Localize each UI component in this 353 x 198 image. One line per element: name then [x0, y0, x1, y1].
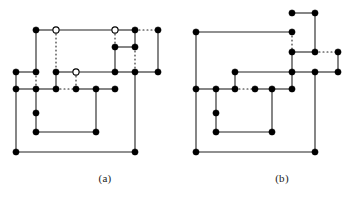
panel-a-vertices [13, 27, 161, 155]
graph-vertex-filled [13, 149, 19, 155]
caption-panel-b: (b) [252, 172, 312, 184]
graph-vertex-filled [13, 69, 19, 75]
graph-vertex-filled [33, 129, 39, 135]
graph-vertex-filled [13, 86, 19, 92]
graph-vertex-filled [73, 86, 79, 92]
graph-vertex-filled [112, 69, 118, 75]
graph-vertex-filled [193, 29, 199, 35]
graph-vertex-filled [289, 49, 295, 55]
graph-vertex-hollow [112, 27, 118, 33]
graph-vertex-filled [289, 69, 295, 75]
graph-vertex-filled [335, 49, 341, 55]
graph-vertex-filled [269, 86, 275, 92]
graph-vertex-filled [132, 149, 138, 155]
graph-vertex-filled [53, 86, 59, 92]
graph-vertex-filled [93, 86, 99, 92]
graph-vertex-filled [312, 149, 318, 155]
graph-vertex-filled [232, 69, 238, 75]
graph-vertex-filled [213, 86, 219, 92]
figure-container: (a) (b) [0, 0, 353, 198]
graph-vertex-filled [213, 110, 219, 116]
graph-vertex-filled [112, 44, 118, 50]
graph-vertex-filled [193, 149, 199, 155]
graph-vertex-filled [155, 69, 161, 75]
graph-vertex-filled [93, 129, 99, 135]
graph-vertex-filled [289, 86, 295, 92]
graph-vertex-hollow [73, 69, 79, 75]
graph-vertex-filled [312, 49, 318, 55]
panel-a-dotted-edges [36, 30, 158, 89]
graph-vertex-filled [289, 29, 295, 35]
graph-vertex-filled [33, 69, 39, 75]
graph-vertex-filled [33, 86, 39, 92]
graph-vertex-filled [33, 110, 39, 116]
panel-b-dotted-edges [235, 32, 338, 89]
graph-vertex-filled [312, 10, 318, 16]
graph-vertex-filled [232, 86, 238, 92]
graph-vertex-filled [252, 86, 258, 92]
graph-vertex-filled [193, 86, 199, 92]
graph-vertex-filled [213, 129, 219, 135]
graph-vertex-filled [33, 27, 39, 33]
graph-vertex-filled [132, 69, 138, 75]
graph-vertex-filled [132, 27, 138, 33]
graph-vertex-filled [269, 129, 275, 135]
graph-vertex-filled [335, 69, 341, 75]
graph-vertex-filled [132, 44, 138, 50]
caption-panel-a: (a) [75, 172, 135, 184]
graph-vertex-filled [312, 69, 318, 75]
graph-vertex-hollow [53, 27, 59, 33]
graph-vertex-filled [155, 27, 161, 33]
graph-vertex-filled [112, 86, 118, 92]
grid-graph-figure [0, 0, 353, 198]
graph-vertex-filled [53, 69, 59, 75]
graph-vertex-filled [289, 10, 295, 16]
